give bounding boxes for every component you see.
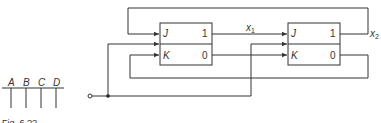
input-bus: A B C D — [2, 77, 64, 108]
ff2-j-label: J — [290, 28, 297, 39]
bus-label-d: D — [53, 77, 60, 88]
input-terminal — [88, 94, 92, 98]
x1-label: x1 — [245, 22, 255, 34]
flipflop-1: J K 1 0 — [160, 23, 212, 65]
ff2-qbar-label: 0 — [330, 50, 336, 61]
bus-label-a: A — [7, 77, 15, 88]
flipflop-2: J K 1 0 — [288, 23, 340, 65]
bus-label-c: C — [38, 77, 46, 88]
x2-label: x2 — [369, 28, 379, 40]
figure-caption: Fig. 6.?? — [2, 118, 37, 123]
ff1-j-label: J — [162, 28, 169, 39]
ff1-qbar-label: 0 — [202, 50, 208, 61]
bus-label-b: B — [23, 77, 30, 88]
ff1-q-label: 1 — [202, 28, 208, 39]
ff2-q-label: 1 — [330, 28, 336, 39]
circuit-diagram: A B C D Fig. 6.?? J K 1 0 J K 1 0 x1 x2 — [0, 0, 381, 123]
